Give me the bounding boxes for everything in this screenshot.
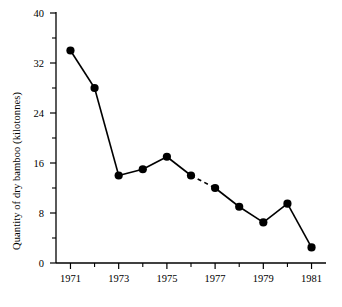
x-axis-tick-label: 1971 (50, 273, 90, 284)
y-axis-tick-label: 0 (22, 258, 44, 269)
data-point-marker (259, 218, 267, 226)
data-point-marker (235, 203, 243, 211)
data-point-marker (139, 165, 147, 173)
data-line-segment (215, 188, 239, 207)
data-line-segment (167, 157, 191, 176)
data-point-marker (283, 200, 291, 208)
data-point-marker (66, 46, 74, 54)
y-axis-tick-label: 24 (22, 108, 44, 119)
y-axis-tick-label: 32 (22, 58, 44, 69)
y-axis-tick-label: 16 (22, 158, 44, 169)
data-point-marker (115, 171, 123, 179)
x-axis-tick-label: 1981 (292, 273, 332, 284)
line-chart: Quantity of dry bamboo (kilotonnes) 0816… (0, 0, 342, 307)
data-point-marker (211, 184, 219, 192)
data-line-segment (287, 204, 311, 248)
data-line-segment (263, 204, 287, 223)
data-point-marker (163, 153, 171, 161)
data-line-segment (70, 51, 94, 89)
x-axis-tick-label: 1979 (243, 273, 283, 284)
data-line-segment (95, 88, 119, 176)
x-axis-tick-label: 1977 (195, 273, 235, 284)
plot-area (0, 0, 342, 307)
data-point-marker (90, 84, 98, 92)
x-axis-tick-label: 1973 (99, 273, 139, 284)
y-axis-tick-label: 8 (22, 208, 44, 219)
y-axis-tick-label: 40 (22, 8, 44, 19)
data-line-segment (239, 207, 263, 223)
data-point-marker (187, 171, 195, 179)
x-axis-tick-label: 1975 (147, 273, 187, 284)
data-point-marker (307, 243, 315, 251)
